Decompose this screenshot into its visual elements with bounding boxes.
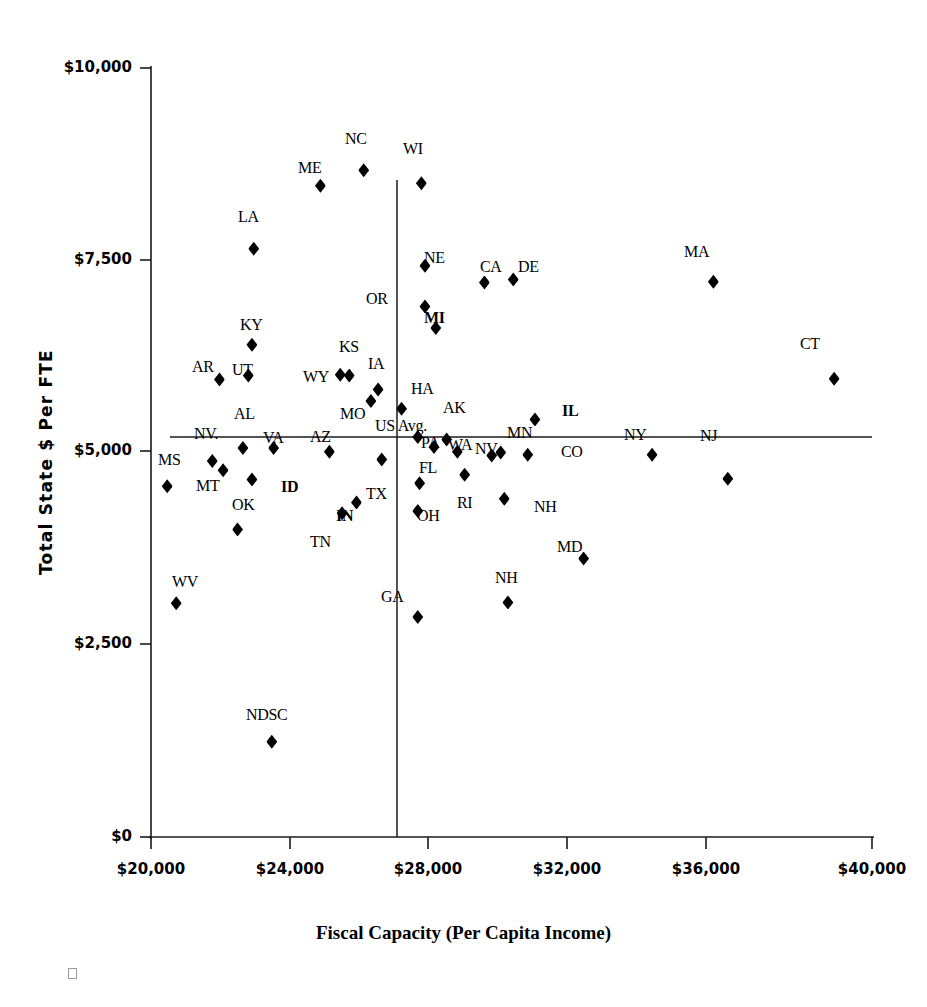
data-point-label: OK	[232, 497, 255, 513]
data-point-label: NV	[475, 441, 498, 457]
data-point-label: NE	[424, 250, 445, 266]
data-point-label: GA	[381, 589, 404, 605]
y-tick-label: $0	[28, 829, 132, 844]
data-point-label: MA	[684, 244, 709, 260]
x-axis-title: Fiscal Capacity (Per Capita Income)	[0, 922, 927, 944]
data-point-label: OH	[417, 508, 440, 524]
data-point-label: WA	[448, 437, 472, 453]
data-point-label: KS	[339, 339, 359, 355]
data-point-label: NJ	[700, 428, 717, 444]
page-artifact-marker	[68, 968, 77, 979]
data-point-label: OR	[366, 291, 388, 307]
data-point-label: MN	[507, 425, 532, 441]
data-point-label: US Avg.	[375, 418, 427, 434]
data-point-label: AL	[234, 406, 255, 422]
data-point-label: CT	[800, 336, 820, 352]
scatter-chart: $10,000$7,500$5,000$2,500$0 $20,000$24,0…	[0, 0, 927, 1007]
data-point-label: NDSC	[246, 707, 287, 723]
data-point-label: NV.	[194, 426, 218, 442]
data-point-label: ME	[298, 160, 321, 176]
y-axis-title: Total State $ Per FTE	[36, 312, 56, 612]
data-point-label: MD	[557, 539, 582, 555]
y-tick-label: $2,500	[28, 636, 132, 651]
data-point-label: WV	[172, 574, 198, 590]
x-tick-label: $32,000	[512, 862, 622, 877]
x-tick-label: $24,000	[235, 862, 345, 877]
data-point-label: IN	[336, 508, 353, 524]
data-point-label: DE	[518, 259, 539, 275]
y-tick-label: $7,500	[28, 252, 132, 267]
data-point-label: NC	[345, 131, 367, 147]
data-point-label: VA	[263, 430, 283, 446]
data-point-label: TN	[310, 534, 331, 550]
data-point-label: AK	[443, 400, 466, 416]
data-point-label: NY	[624, 427, 647, 443]
data-point-label: WY	[303, 369, 329, 385]
data-point-label: MT	[196, 478, 219, 494]
data-point-label: LA	[238, 209, 259, 225]
data-point-label: UT	[232, 362, 253, 378]
x-tick-label: $20,000	[96, 862, 206, 877]
data-point-label: MS	[158, 452, 181, 468]
data-point-label: IA	[368, 356, 384, 372]
data-point-label: RI	[457, 495, 472, 511]
data-point-label: TX	[366, 486, 387, 502]
data-point-label: FL	[419, 460, 437, 476]
data-point-label: CA	[480, 259, 502, 275]
data-point-label: CO	[561, 444, 583, 460]
data-point-label: MO	[340, 406, 365, 422]
x-tick-label: $36,000	[651, 862, 761, 877]
data-point-label: NH	[495, 570, 518, 586]
y-tick-label: $10,000	[28, 60, 132, 75]
data-point-label: HA	[411, 381, 434, 397]
data-point-label: AZ	[310, 429, 331, 445]
data-point-label: MI	[424, 310, 445, 326]
x-tick-label: $28,000	[373, 862, 483, 877]
data-point-label: PA	[421, 435, 439, 451]
data-point-label: ID	[281, 479, 298, 495]
data-point-label: AR	[192, 359, 214, 375]
data-point-label: KY	[240, 317, 263, 333]
data-point-label: WI	[403, 141, 423, 157]
x-tick-label: $40,000	[817, 862, 927, 877]
data-point-label: NH	[534, 499, 557, 515]
data-point-label: IL	[562, 403, 578, 419]
